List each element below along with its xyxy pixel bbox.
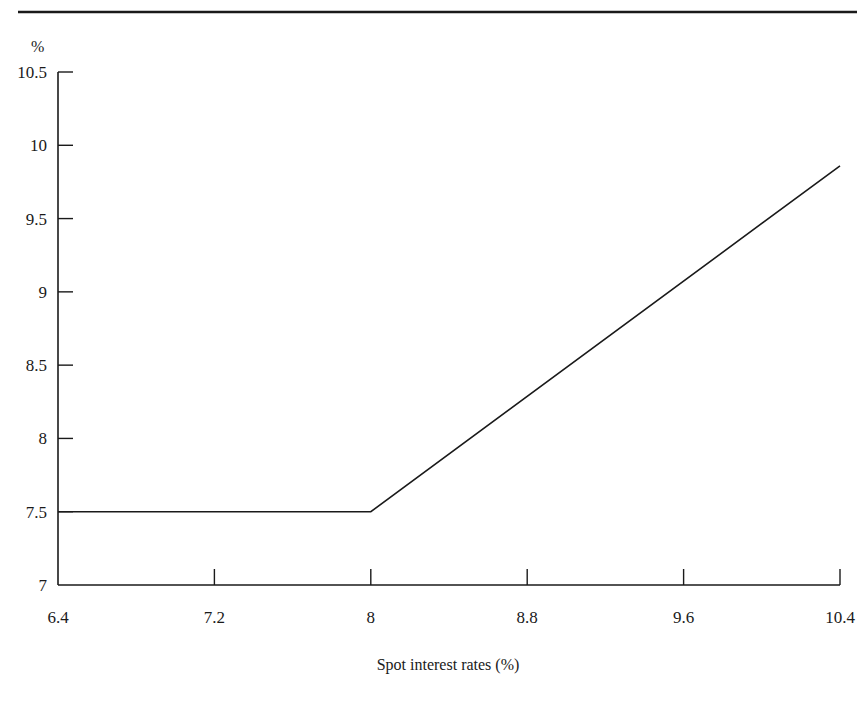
y-tick-label: 8 [39,429,48,448]
y-tick-label: 9 [39,283,48,302]
data-series [58,166,840,512]
y-axis-unit-label: % [31,38,44,55]
x-axis: 6.47.288.89.610.4 [47,569,855,627]
x-tick-label: 8 [367,608,376,627]
y-tick-label: 7 [39,576,48,595]
y-tick-label: 10.5 [17,63,47,82]
y-axis: 77.588.599.51010.5 [17,63,73,595]
x-tick-label: 8.8 [517,608,538,627]
y-tick-label: 8.5 [26,356,47,375]
y-tick-label: 9.5 [26,210,47,229]
series-line [58,166,840,512]
y-tick-label: 7.5 [26,503,47,522]
x-axis-label: Spot interest rates (%) [377,656,520,674]
x-tick-label: 6.4 [47,608,69,627]
line-chart: % 77.588.599.51010.5 6.47.288.89.610.4 S… [0,0,868,703]
x-tick-label: 7.2 [204,608,225,627]
x-tick-label: 9.6 [673,608,694,627]
x-tick-label: 10.4 [825,608,855,627]
y-tick-label: 10 [30,136,47,155]
